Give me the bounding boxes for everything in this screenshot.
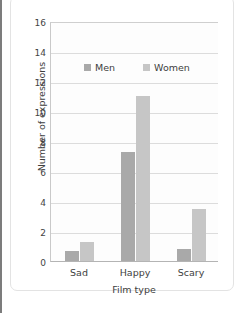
page-margin-rule (0, 0, 2, 313)
legend-swatch-icon (143, 64, 150, 71)
x-tick-label: Sad (70, 267, 88, 278)
legend-label: Men (95, 62, 115, 73)
bar-happy-women (136, 96, 150, 261)
bar-scary-women (192, 209, 206, 262)
y-tick-label: 4 (40, 198, 46, 208)
y-tick-label: 10 (35, 108, 46, 118)
y-tick-label: 6 (40, 168, 46, 178)
x-tick-label: Scary (178, 267, 205, 278)
x-axis-title: Film type (50, 284, 218, 295)
legend-item-men: Men (84, 62, 115, 73)
legend-label: Women (154, 62, 190, 73)
bars-group (51, 23, 218, 261)
legend-item-women: Women (143, 62, 190, 73)
y-tick-label: 12 (35, 78, 46, 88)
legend-swatch-icon (84, 64, 91, 71)
bar-scary-men (177, 249, 191, 261)
bar-happy-men (121, 152, 135, 262)
y-tick-label: 14 (35, 48, 46, 58)
x-tick-label: Happy (120, 267, 151, 278)
y-tick-label: 8 (40, 138, 46, 148)
bar-sad-women (80, 242, 94, 262)
chart-legend: MenWomen (84, 62, 190, 73)
bar-sad-men (65, 251, 79, 262)
plot-area: 0246810121416 SadHappyScary (50, 22, 218, 262)
bar-chart: Number of expressions 0246810121416 SadH… (10, 0, 234, 291)
y-tick-label: 0 (40, 258, 46, 268)
y-tick-label: 2 (40, 228, 46, 238)
y-tick-label: 16 (35, 18, 46, 28)
